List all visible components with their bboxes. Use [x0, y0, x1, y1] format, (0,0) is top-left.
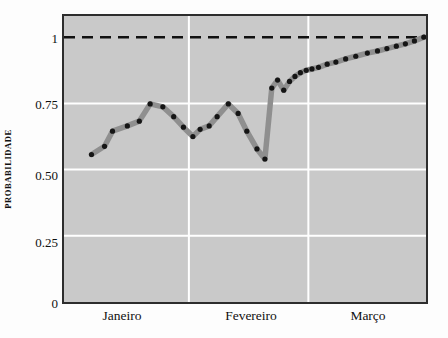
vertical-gridlines — [189, 16, 308, 302]
x-tick-label-marco: Março — [330, 308, 406, 324]
y-tick-label-1: 1 — [14, 32, 58, 45]
plot-area — [62, 14, 428, 304]
y-tick-label-075: 0.75 — [14, 98, 58, 111]
y-axis-tick-labels: 1 0.75 0.50 0.25 0 — [10, 0, 58, 338]
plot-svg — [64, 16, 426, 302]
x-axis-tick-labels: Janeiro Fevereiro Março — [0, 308, 448, 332]
y-tick-label-050: 0.50 — [14, 169, 58, 182]
x-tick-label-janeiro: Janeiro — [82, 308, 162, 324]
x-tick-label-fevereiro: Fevereiro — [208, 308, 294, 324]
series-line-probabilidade — [92, 37, 424, 159]
chart-figure: PROBABILIDADE 1 0.75 0.50 0.25 0 Janeiro… — [0, 0, 448, 338]
y-tick-label-025: 0.25 — [14, 236, 58, 249]
